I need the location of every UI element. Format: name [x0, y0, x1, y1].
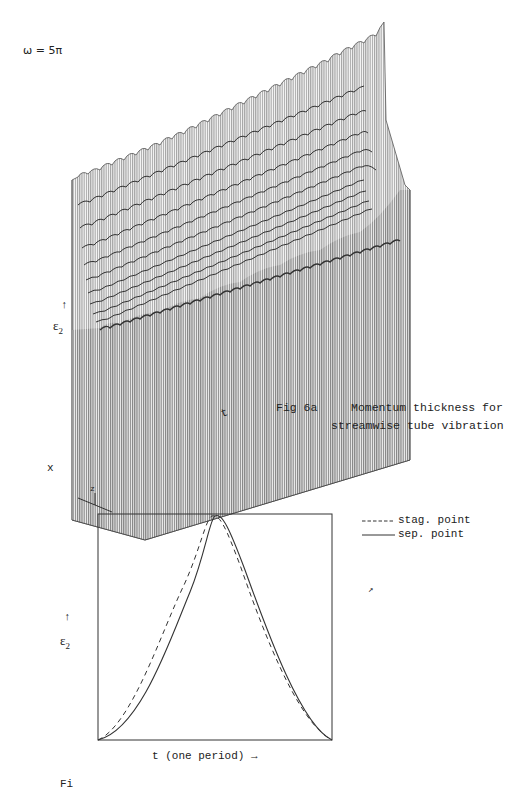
- y-axis-label-top: ε2: [53, 318, 63, 336]
- series-stag-point: [98, 516, 332, 740]
- caption-line-2: streamwise tube vibration: [331, 419, 504, 432]
- x-axis-label: x: [47, 462, 54, 474]
- legend: stag. point sep. point: [398, 513, 471, 541]
- legend-item-sep-point: sep. point: [398, 527, 471, 541]
- stray-mark: ↗: [368, 584, 373, 595]
- legend-item-stag-point: stag. point: [398, 513, 471, 527]
- caption-line-1: Momentum thickness for: [351, 401, 503, 414]
- figure-id: Fig 6a: [276, 401, 317, 414]
- epsilon-subscript: 2: [58, 326, 63, 336]
- y-axis-arrow-top: ↑: [61, 299, 68, 311]
- series-sep-point: [98, 515, 332, 740]
- epsilon-subscript: 2: [65, 641, 70, 651]
- x-axis-label-bottom: t (one period) →: [152, 750, 258, 762]
- y-axis-arrow-bottom: ↑: [64, 611, 71, 623]
- z-axis-label: z: [90, 484, 95, 493]
- caption-partial: Fi: [60, 778, 73, 790]
- y-axis-label-bottom: ε2: [60, 633, 70, 651]
- line-chart-frame: [98, 514, 332, 740]
